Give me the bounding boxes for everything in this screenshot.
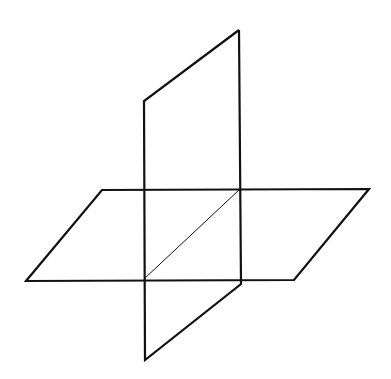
intersecting-planes-diagram (0, 0, 391, 379)
horizontal-plane (26, 189, 369, 281)
intersection-line (144, 190, 239, 279)
vertical-plane (144, 30, 241, 360)
